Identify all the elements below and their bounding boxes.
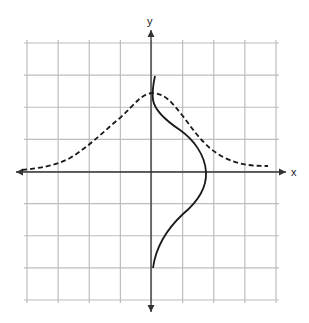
dashed-bell-curve (22, 93, 268, 170)
x-axis-right-arrow-icon (279, 169, 286, 176)
x-axis-label: x (291, 166, 297, 178)
y-axis-up-arrow-icon (148, 30, 155, 37)
coordinate-plane: x y (0, 0, 309, 323)
y-axis-label: y (147, 15, 153, 27)
y-axis-down-arrow-icon (148, 305, 155, 312)
